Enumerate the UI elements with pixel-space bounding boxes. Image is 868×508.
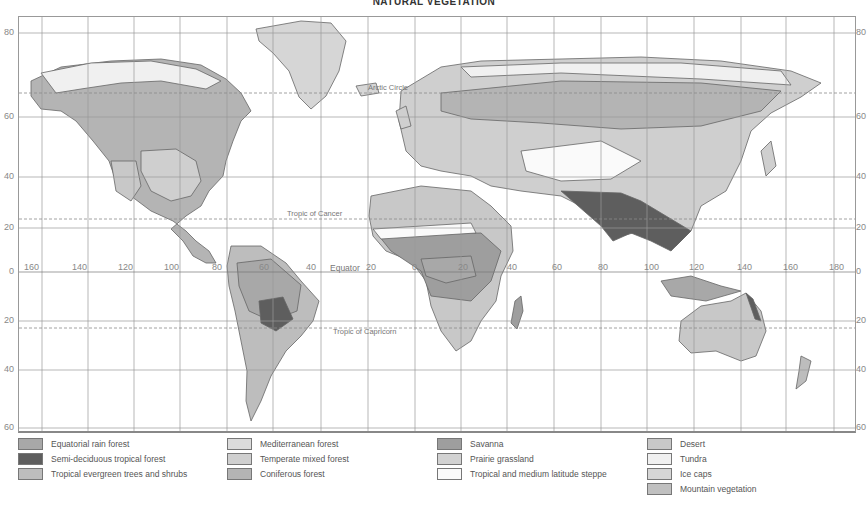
swatch-equatorial-rain-forest bbox=[18, 438, 43, 450]
lat-label: 20 bbox=[856, 315, 866, 325]
legend-item: Tundra bbox=[647, 452, 707, 466]
swatch-semi-deciduous-tropical-forest bbox=[18, 453, 43, 465]
lat-label: 40 bbox=[856, 171, 866, 181]
legend-label: Desert bbox=[680, 439, 705, 449]
legend-label: Tundra bbox=[680, 454, 707, 464]
lon-label: 0 bbox=[412, 262, 417, 272]
lon-label: 140 bbox=[737, 262, 752, 272]
swatch-prairie-grassland bbox=[437, 453, 462, 465]
legend-label: Mountain vegetation bbox=[680, 484, 757, 494]
legend-label: Ice caps bbox=[680, 469, 712, 479]
swatch-coniferous-forest bbox=[227, 468, 252, 480]
lon-label: 140 bbox=[72, 262, 87, 272]
swatch-steppe bbox=[437, 468, 462, 480]
legend-item: Tropical evergreen trees and shrubs bbox=[18, 467, 187, 481]
lon-label: 20 bbox=[458, 262, 468, 272]
lat-label: 60 bbox=[4, 111, 14, 121]
lon-label: 160 bbox=[24, 262, 39, 272]
lat-label: 20 bbox=[856, 222, 866, 232]
legend-label: Tropical and medium latitude steppe bbox=[470, 469, 607, 479]
legend-label: Coniferous forest bbox=[260, 469, 325, 479]
map-title: NATURAL VEGETATION bbox=[0, 0, 868, 7]
swatch-ice-caps bbox=[647, 468, 672, 480]
lat-label: 20 bbox=[4, 222, 14, 232]
lat-label: 60 bbox=[856, 422, 866, 432]
legend-item: Savanna bbox=[437, 437, 504, 451]
legend: Equatorial rain forest Semi-deciduous tr… bbox=[0, 437, 868, 508]
legend-label: Equatorial rain forest bbox=[51, 439, 129, 449]
lon-label: 40 bbox=[306, 262, 316, 272]
lat-label: 60 bbox=[4, 422, 14, 432]
lat-label: 0 bbox=[856, 266, 861, 276]
legend-label: Semi-deciduous tropical forest bbox=[51, 454, 165, 464]
tropic-of-cancer-label: Tropic of Cancer bbox=[287, 209, 342, 218]
lat-label: 80 bbox=[856, 27, 866, 37]
lon-label: 120 bbox=[689, 262, 704, 272]
lat-label: 80 bbox=[4, 27, 14, 37]
tropic-of-capricorn-label: Tropic of Capricorn bbox=[333, 327, 397, 336]
legend-label: Temperate mixed forest bbox=[260, 454, 349, 464]
world-map bbox=[18, 16, 856, 433]
lat-label: 40 bbox=[4, 364, 14, 374]
swatch-temperate-mixed-forest bbox=[227, 453, 252, 465]
lon-label: 100 bbox=[164, 262, 179, 272]
swatch-savanna bbox=[437, 438, 462, 450]
legend-item: Prairie grassland bbox=[437, 452, 534, 466]
vegetation-map-svg bbox=[19, 17, 855, 431]
lat-label: 40 bbox=[856, 364, 866, 374]
lon-label: 80 bbox=[212, 262, 222, 272]
lat-label: 40 bbox=[4, 171, 14, 181]
equator-label: Equator bbox=[330, 263, 360, 273]
lon-label: 180 bbox=[829, 262, 844, 272]
legend-item: Coniferous forest bbox=[227, 467, 325, 481]
legend-label: Mediterranean forest bbox=[260, 439, 338, 449]
landmasses bbox=[31, 21, 821, 421]
legend-item: Tropical and medium latitude steppe bbox=[437, 467, 607, 481]
lon-label: 20 bbox=[366, 262, 376, 272]
swatch-mountain-vegetation bbox=[647, 483, 672, 495]
legend-item: Temperate mixed forest bbox=[227, 452, 349, 466]
legend-label: Savanna bbox=[470, 439, 504, 449]
legend-item: Equatorial rain forest bbox=[18, 437, 129, 451]
legend-item: Semi-deciduous tropical forest bbox=[18, 452, 165, 466]
lon-label: 40 bbox=[507, 262, 517, 272]
swatch-tundra bbox=[647, 453, 672, 465]
legend-item: Ice caps bbox=[647, 467, 712, 481]
arctic-circle-label: Arctic Circle bbox=[368, 83, 408, 92]
legend-item: Desert bbox=[647, 437, 705, 451]
swatch-mediterranean-forest bbox=[227, 438, 252, 450]
swatch-desert bbox=[647, 438, 672, 450]
legend-label: Tropical evergreen trees and shrubs bbox=[51, 469, 187, 479]
lon-label: 100 bbox=[644, 262, 659, 272]
lon-label: 60 bbox=[259, 262, 269, 272]
lon-label: 160 bbox=[783, 262, 798, 272]
lon-label: 120 bbox=[118, 262, 133, 272]
lon-label: 60 bbox=[552, 262, 562, 272]
lat-label: 60 bbox=[856, 111, 866, 121]
lat-label: 0 bbox=[9, 266, 14, 276]
lat-label: 20 bbox=[4, 315, 14, 325]
legend-label: Prairie grassland bbox=[470, 454, 534, 464]
legend-item: Mountain vegetation bbox=[647, 482, 757, 496]
legend-item: Mediterranean forest bbox=[227, 437, 338, 451]
lon-label: 80 bbox=[598, 262, 608, 272]
swatch-tropical-evergreen bbox=[18, 468, 43, 480]
